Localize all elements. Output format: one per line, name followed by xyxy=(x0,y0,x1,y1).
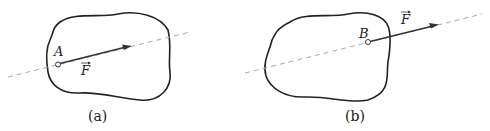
rigid-body-outline-a xyxy=(47,13,171,100)
figure-drawing xyxy=(0,0,490,131)
line-of-action-b xyxy=(245,14,482,73)
point-a-marker xyxy=(56,62,61,67)
point-label-b: B xyxy=(359,26,369,41)
force-arrow-a xyxy=(58,47,126,64)
caption-b: (b) xyxy=(345,108,365,124)
line-of-action-a xyxy=(8,32,190,77)
force-label-b: F xyxy=(401,12,410,27)
force-transmissibility-figure: A F (a) B F (b) xyxy=(0,0,490,131)
rigid-body-outline-b xyxy=(265,13,390,101)
arrowhead-a xyxy=(122,45,132,51)
force-label-a: F xyxy=(81,63,90,78)
caption-a: (a) xyxy=(88,108,107,124)
point-label-a: A xyxy=(54,44,63,59)
arrowhead-b xyxy=(429,23,439,29)
force-arrow-b xyxy=(368,26,433,42)
